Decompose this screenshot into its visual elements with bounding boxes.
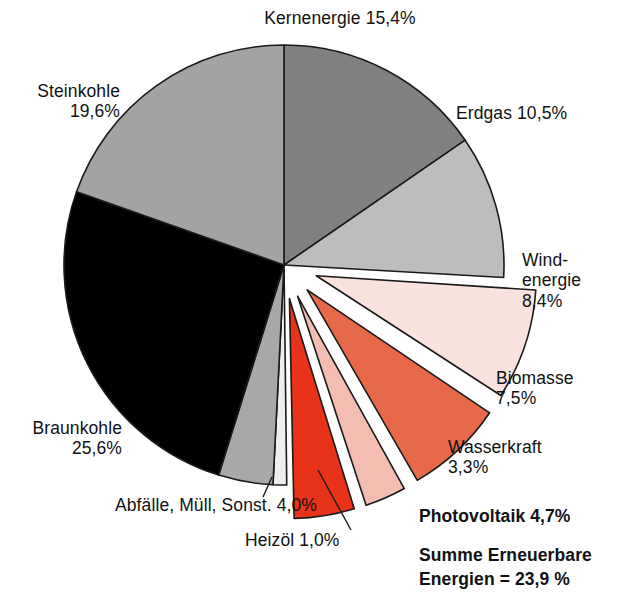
pie-chart-figure: Kernenergie 15,4% Steinkohle 19,6% Erdga… <box>0 0 630 595</box>
slice-label-erdgas: Erdgas 10,5% <box>456 103 626 123</box>
slice-label-braunkohle: Braunkohle 25,6% <box>0 418 122 459</box>
slice-label-heizoel: Heizöl 1,0% <box>245 530 405 550</box>
renewables-sum-line1: Summe Erneuerbare <box>419 545 629 565</box>
slice-label-windenergie: Wind- energie 8,4% <box>522 250 627 311</box>
renewables-sum-line2: Energien = 23,9 % <box>419 569 629 589</box>
slice-label-kernenergie: Kernenergie 15,4% <box>225 8 455 28</box>
slice-label-wasserkraft: Wasserkraft 3,3% <box>448 437 608 478</box>
slice-label-abfaelle: Abfälle, Müll, Sonst. 4,0% <box>115 495 395 515</box>
slice-label-photovoltaik: Photovoltaik 4,7% <box>419 506 619 526</box>
slice-label-steinkohle: Steinkohle 19,6% <box>0 81 120 122</box>
slice-label-biomasse: Biomasse 7,5% <box>496 368 626 409</box>
